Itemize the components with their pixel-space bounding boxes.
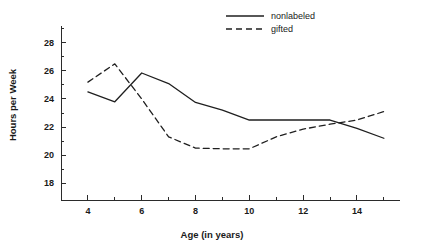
chart-legend: nonlabeledgifted: [226, 11, 315, 34]
series-nonlabeled: [88, 73, 384, 138]
y-tick-label: 24: [44, 94, 54, 104]
series-group: [88, 64, 384, 149]
series-gifted: [88, 64, 384, 149]
y-tick-label: 20: [44, 150, 54, 160]
line-chart: 182022242628 468101214 nonlabeledgifted …: [0, 0, 425, 246]
x-tick-label: 8: [193, 206, 198, 216]
y-tick-label: 26: [44, 66, 54, 76]
y-tick-label: 18: [44, 178, 54, 188]
y-tick-label: 22: [44, 122, 54, 132]
y-tick-group: 182022242628: [44, 29, 66, 189]
x-axis: 468101214: [61, 195, 400, 216]
x-tick-label: 12: [298, 206, 308, 216]
x-axis-title: Age (in years): [181, 229, 244, 240]
x-tick-group: 468101214: [85, 195, 383, 216]
y-axis-title: Hours per Week: [7, 68, 18, 141]
chart-canvas: 182022242628 468101214 nonlabeledgifted …: [0, 0, 425, 246]
x-tick-label: 14: [352, 206, 362, 216]
y-tick-label: 28: [44, 38, 54, 48]
y-axis: 182022242628: [44, 26, 66, 200]
legend-label-nonlabeled: nonlabeled: [271, 11, 315, 21]
legend-label-gifted: gifted: [271, 24, 293, 34]
x-tick-label: 10: [244, 206, 254, 216]
x-tick-label: 4: [85, 206, 90, 216]
x-tick-label: 6: [139, 206, 144, 216]
